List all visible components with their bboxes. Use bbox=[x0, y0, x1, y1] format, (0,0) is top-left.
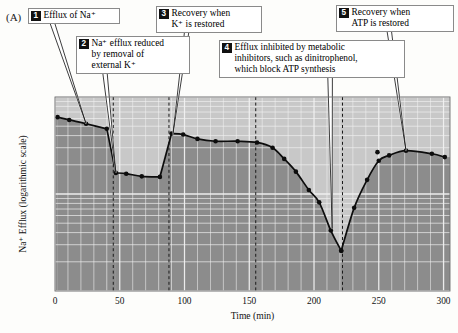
area-fill-below-curve bbox=[116, 173, 160, 291]
data-point bbox=[294, 169, 299, 174]
callout-5: 5 Recovery when ATP is restored bbox=[336, 5, 454, 32]
data-point bbox=[139, 174, 144, 179]
gridlines bbox=[55, 97, 450, 291]
data-point bbox=[181, 132, 186, 137]
x-tick-label: 0 bbox=[53, 296, 58, 306]
callout-number-2: 2 bbox=[79, 39, 89, 49]
data-point bbox=[55, 115, 60, 120]
data-point bbox=[124, 171, 129, 176]
data-point bbox=[235, 139, 240, 144]
callout-1: 1 Efflux of Na⁺ bbox=[28, 8, 120, 24]
data-point bbox=[307, 188, 312, 193]
callout-text-1: Efflux of Na⁺ bbox=[44, 10, 96, 21]
data-point bbox=[213, 139, 218, 144]
area-fill-tail bbox=[445, 157, 450, 291]
callout-text-5: Recovery when ATP is restored bbox=[352, 7, 411, 29]
x-tick-label: 200 bbox=[307, 296, 321, 306]
data-point bbox=[282, 157, 287, 162]
x-axis-label: Time (min) bbox=[231, 310, 275, 322]
data-point bbox=[255, 140, 260, 145]
x-tick-label: 150 bbox=[242, 296, 256, 306]
data-point bbox=[158, 175, 163, 180]
data-point bbox=[430, 151, 435, 156]
callout-4: 4 Efflux inhibited by metabolic inhibito… bbox=[219, 40, 405, 78]
data-point bbox=[329, 228, 334, 233]
callout-number-4: 4 bbox=[222, 43, 232, 53]
data-point bbox=[387, 153, 392, 158]
callout-text-4: Efflux inhibited by metabolic inhibitors… bbox=[235, 42, 358, 75]
data-point bbox=[195, 137, 200, 142]
area-fill-below-curve bbox=[58, 117, 107, 291]
data-point bbox=[105, 127, 110, 132]
callout-number-5: 5 bbox=[339, 8, 349, 18]
data-point bbox=[443, 155, 448, 160]
figure-root: (A) 050100150200250300Time (min)Na⁺ Effl… bbox=[0, 0, 458, 333]
y-axis-label: Na⁺ Efflux (logarithmic scale) bbox=[17, 135, 29, 253]
data-point bbox=[317, 200, 322, 205]
callout-number-3: 3 bbox=[159, 9, 169, 19]
x-tick-label: 300 bbox=[436, 296, 450, 306]
callout-3: 3 Recovery when K⁺ is restored bbox=[156, 6, 262, 33]
x-tick-label: 50 bbox=[115, 296, 125, 306]
data-point bbox=[67, 118, 72, 123]
x-tick-label: 250 bbox=[372, 296, 386, 306]
data-point bbox=[376, 158, 381, 163]
callout-2: 2 Na⁺ efflux reduced by removal of exter… bbox=[76, 36, 190, 74]
x-tick-label: 100 bbox=[177, 296, 191, 306]
data-point bbox=[339, 248, 344, 253]
data-point bbox=[270, 145, 275, 150]
callout-number-1: 1 bbox=[31, 11, 41, 21]
data-point bbox=[365, 178, 370, 183]
callout-text-2: Na⁺ efflux reduced by removal of externa… bbox=[92, 38, 165, 71]
data-point-outlier bbox=[375, 150, 380, 155]
data-point bbox=[352, 206, 357, 211]
callout-text-3: Recovery when K⁺ is restored bbox=[172, 8, 231, 30]
